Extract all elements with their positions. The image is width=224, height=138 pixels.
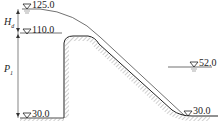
head-label: Hd [4,17,14,31]
tailwater-elevation-label: 52.0 [199,58,217,68]
downstream-bed-elevation-label: 30.0 [193,106,211,116]
weir-height-label: P1 [4,64,13,78]
crest-elevation-label: 110.0 [32,25,54,35]
spillway-diagram: 125.0 110.0 30.0 52.0 30.0 Hd P1 [0,0,224,138]
upstream-bed-elevation-label: 30.0 [32,109,50,119]
headwater-elevation-label: 125.0 [32,0,55,10]
